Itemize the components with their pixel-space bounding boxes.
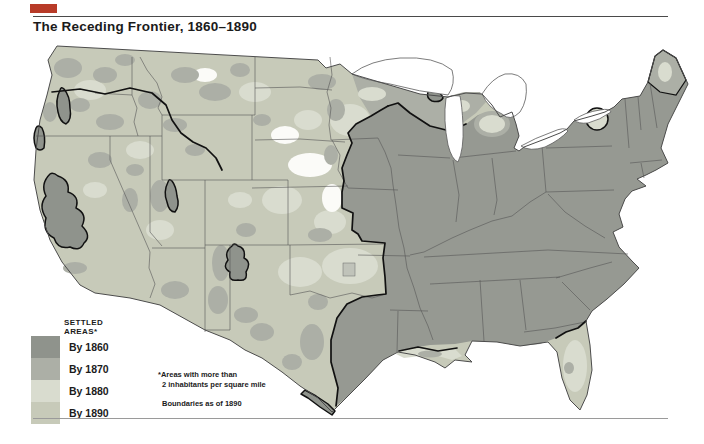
legend-swatch-1890 (31, 402, 60, 424)
legend-label-1880: By 1880 (69, 385, 109, 397)
figure-receding-frontier: The Receding Frontier, 1860–1890 (0, 0, 704, 444)
legend-swatch-1870 (31, 358, 60, 380)
legend-item-1870: By 1870 (31, 358, 109, 380)
footnote-line2: 2 inhabitants per square mile (158, 380, 266, 390)
nw-california-outpost (34, 126, 45, 150)
legend-header: SETTLED AREAS* (64, 318, 103, 336)
legend-label-1870: By 1870 (69, 363, 109, 375)
legend-item-1880: By 1880 (31, 380, 109, 402)
legend-swatch-1880 (31, 380, 60, 402)
legend-swatch-1860 (31, 336, 60, 358)
boundaries-note: Boundaries as of 1890 (162, 399, 242, 408)
legend-item-1860: By 1860 (31, 336, 109, 358)
bottom-rule (33, 418, 668, 419)
footnote-asterisk: *Areas with more than 2 inhabitants per … (158, 370, 266, 389)
legend-label-1860: By 1860 (69, 341, 109, 353)
legend-item-1890: By 1890 (31, 402, 109, 424)
footnote-line1: *Areas with more than (158, 370, 266, 380)
